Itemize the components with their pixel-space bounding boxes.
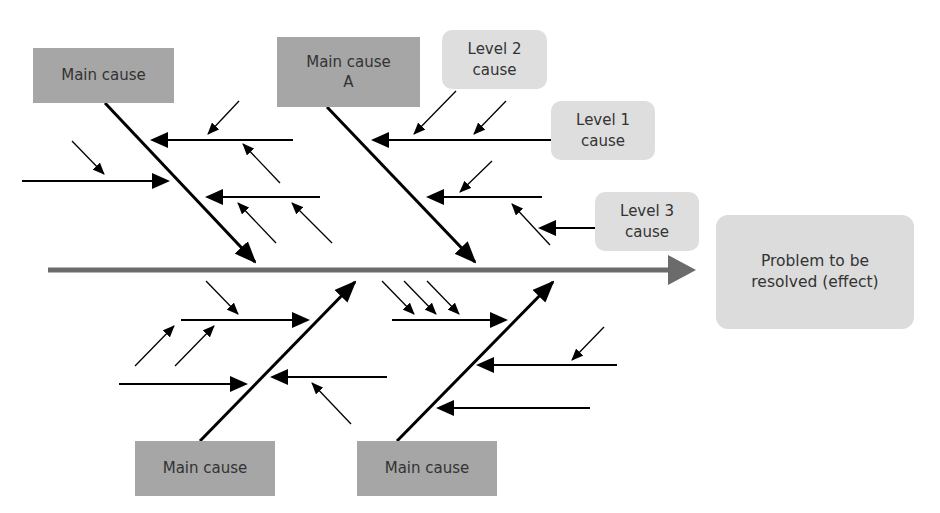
bone-bottom-left [200,282,355,441]
bone-bottom-right [397,282,553,441]
main-cause-box-a: Main cause A [277,37,420,107]
level-3-cause-box: Level 3 cause [595,192,699,251]
main-cause-box-bottom-left: Main cause [135,441,275,496]
level-1-cause-label: Level 1 cause [576,110,630,151]
subcauses-bottom-right [382,281,617,408]
main-cause-a-label: Main cause A [306,52,391,93]
subcauses-bottom-left [119,281,387,424]
main-cause-box-top-left: Main cause [33,48,174,103]
main-cause-box-bottom-right: Main cause [357,441,497,496]
effect-label: Problem to be resolved (effect) [751,251,878,293]
main-cause-label: Main cause [163,458,248,478]
main-cause-label: Main cause [385,458,470,478]
level-3-cause-label: Level 3 cause [620,201,674,242]
bone-top-left [105,103,255,262]
level-2-cause-label: Level 2 cause [468,39,522,80]
main-cause-label: Main cause [61,65,146,85]
level-2-cause-box: Level 2 cause [442,30,547,89]
bone-top-a [327,107,475,262]
effect-box: Problem to be resolved (effect) [716,215,914,329]
spine-arrow [48,255,696,285]
subcauses-top-left [22,101,332,243]
level-1-cause-box: Level 1 cause [551,101,655,160]
